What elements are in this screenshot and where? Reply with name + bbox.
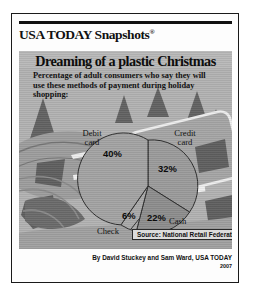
subtitle: Percentage of adult consumers who say th… xyxy=(33,71,213,100)
byline-text: By David Stuckey and Sam Ward, USA TODAY xyxy=(92,254,232,261)
masthead: USA TODAY Snapshots® xyxy=(19,21,232,43)
pie-label-cash: Cash xyxy=(169,217,186,226)
registered-mark-icon: ® xyxy=(149,28,154,36)
byline: By David Stuckey and Sam Ward, USA TODAY… xyxy=(19,254,232,270)
pie-label-credit: Credit card xyxy=(166,129,204,148)
brand-title: USA TODAY Snapshots® xyxy=(19,27,232,43)
pie-label-check: Check xyxy=(97,227,119,236)
pie-value-debit: 40% xyxy=(103,148,122,159)
brand-name: USA TODAY Snapshots xyxy=(19,27,149,42)
pie-value-check: 6% xyxy=(122,210,136,221)
infographic-panel: Dreaming of a plastic Christmas Percenta… xyxy=(19,51,232,249)
byline-year: 2007 xyxy=(19,262,232,270)
masthead-rule xyxy=(19,21,232,24)
pie-value-credit: 32% xyxy=(158,163,177,174)
snapshot-frame: USA TODAY Snapshots® xyxy=(11,13,239,283)
pie-value-cash: 22% xyxy=(147,212,166,223)
wallet-shadow-a xyxy=(35,159,65,187)
source-credit: Source: National Retail Federation xyxy=(132,229,232,240)
page-title: Dreaming of a plastic Christmas xyxy=(19,51,232,70)
pie-label-debit: Debit card xyxy=(74,129,110,148)
